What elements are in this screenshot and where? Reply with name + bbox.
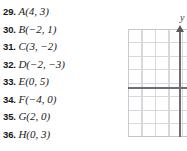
- list-item: 35.G(2, 0): [3, 108, 50, 121]
- exercise-expression: G(2, 0): [18, 110, 50, 122]
- exercise-expression: F(−4, 0): [18, 93, 56, 105]
- exercise-list: 29.A(4, 3) 30.B(−2, 1) 31.C(3, −2) 32.D(…: [0, 0, 100, 151]
- textbook-page: 29.A(4, 3) 30.B(−2, 1) 31.C(3, −2) 32.D(…: [0, 0, 187, 151]
- list-item: 29.A(4, 3): [3, 3, 49, 16]
- y-axis-label: y: [180, 13, 184, 23]
- exercise-number: 35.: [3, 111, 16, 122]
- list-item: 36.H(0, 3): [3, 126, 50, 139]
- exercise-number: 31.: [3, 41, 16, 52]
- exercise-number: 33.: [3, 76, 16, 87]
- exercise-number: 34.: [3, 94, 16, 105]
- exercise-expression: C(3, −2): [18, 40, 57, 52]
- coordinate-plane-figure: y: [128, 29, 187, 137]
- list-item: 32.D(−2, −3): [3, 56, 65, 69]
- exercise-number: 32.: [3, 59, 16, 70]
- y-axis-arrow-icon: [176, 25, 184, 32]
- exercise-expression: E(0, 5): [18, 75, 49, 87]
- exercise-number: 36.: [3, 129, 16, 140]
- exercise-number: 30.: [3, 24, 16, 35]
- list-item: 30.B(−2, 1): [3, 21, 56, 34]
- grid-border-left: [128, 29, 129, 137]
- list-item: 31.C(3, −2): [3, 38, 57, 51]
- exercise-expression: B(−2, 1): [18, 23, 56, 35]
- exercise-expression: A(4, 3): [18, 5, 49, 17]
- exercise-number: 29.: [3, 6, 16, 17]
- list-item: 33.E(0, 5): [3, 73, 49, 86]
- exercise-expression: H(0, 3): [18, 128, 50, 140]
- list-item: 34.F(−4, 0): [3, 91, 56, 104]
- exercise-expression: D(−2, −3): [18, 58, 65, 70]
- y-axis: [179, 31, 181, 137]
